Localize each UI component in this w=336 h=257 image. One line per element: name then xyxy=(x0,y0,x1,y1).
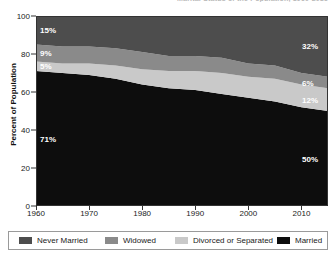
callout-married-1960: 71% xyxy=(40,135,56,144)
legend-swatch-icon xyxy=(277,237,290,244)
chart-legend: Never MarriedWidowedDivorced or Separate… xyxy=(8,231,328,250)
callout-divorced-1960: 5% xyxy=(40,62,52,71)
callout-divorced-2015: 12% xyxy=(302,96,318,105)
legend-item-never-married[interactable]: Never Married xyxy=(19,236,88,245)
legend-label: Never Married xyxy=(37,236,88,245)
callout-married-2015: 50% xyxy=(302,155,318,164)
data-callouts: 15%9%5%71%32%6%12%50% xyxy=(0,0,336,257)
stacked-area-chart: Marital Status of the Population, 1960-2… xyxy=(0,0,336,257)
legend-label: Married xyxy=(295,236,322,245)
callout-never-married-2015: 32% xyxy=(302,42,318,51)
legend-swatch-icon xyxy=(19,237,32,244)
legend-label: Widowed xyxy=(123,236,156,245)
legend-item-widowed[interactable]: Widowed xyxy=(105,236,156,245)
legend-swatch-icon xyxy=(105,237,118,244)
callout-widowed-2015: 6% xyxy=(302,79,314,88)
callout-widowed-1960: 9% xyxy=(40,49,52,58)
callout-never-married-1960: 15% xyxy=(40,26,56,35)
legend-swatch-icon xyxy=(175,237,188,244)
legend-label: Divorced or Separated xyxy=(193,236,273,245)
legend-item-divorced-or-separated[interactable]: Divorced or Separated xyxy=(175,236,273,245)
legend-item-married[interactable]: Married xyxy=(277,236,322,245)
